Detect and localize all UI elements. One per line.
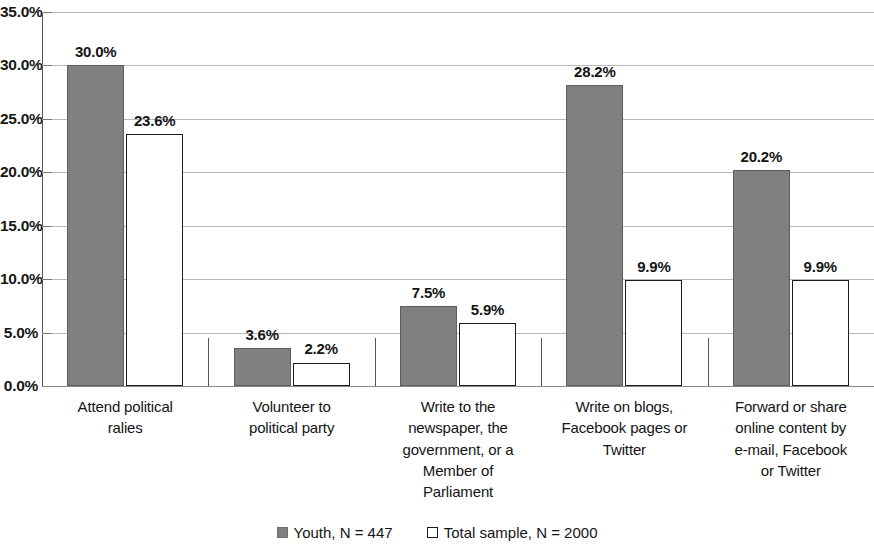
bar-data-label: 30.0% [75, 43, 117, 60]
category-label-line: Volunteer to [208, 396, 374, 417]
bar-chart: 0.0%5.0%10.0%15.0%20.0%25.0%30.0%35.0% 3… [0, 0, 874, 554]
x-axis-category-label: Write on blogs,Facebook pages orTwitter [541, 396, 707, 460]
category-label-line: newspaper, the [375, 417, 541, 438]
legend-label: Youth, N = 447 [294, 524, 393, 541]
bar-data-label: 2.2% [304, 340, 337, 357]
bar-total-sample [792, 280, 849, 386]
bar-data-label: 28.2% [574, 63, 616, 80]
bar-youth [234, 348, 291, 386]
category-separator-tick [708, 338, 709, 386]
y-axis-tick-mark [43, 226, 52, 227]
category-separator-tick [208, 338, 209, 386]
y-axis-tick-mark [43, 119, 52, 120]
y-axis-line [42, 12, 43, 386]
bar-total-sample [459, 323, 516, 386]
y-axis-tick-label: 25.0% [0, 110, 38, 128]
y-axis-tick-mark [43, 333, 52, 334]
category-label-line: political party [208, 417, 374, 438]
category-label-line: e-mail, Facebook [708, 439, 874, 460]
y-axis-tick-mark [43, 12, 52, 13]
x-axis-line [42, 386, 874, 387]
category-label-line: or Twitter [708, 460, 874, 481]
bar-total-sample [126, 134, 183, 386]
y-axis-tick-label: 15.0% [0, 217, 38, 235]
category-label-line: government, or a [375, 439, 541, 460]
y-axis-tick-label: 10.0% [0, 270, 38, 288]
bar-total-sample [625, 280, 682, 386]
x-axis-category-label: Write to thenewspaper, thegovernment, or… [375, 396, 541, 502]
chart-legend: Youth, N = 447Total sample, N = 2000 [0, 524, 874, 541]
x-axis-category-label: Volunteer topolitical party [208, 396, 374, 439]
x-axis-category-label: Attend politicalralies [42, 396, 208, 439]
bar-total-sample [293, 363, 350, 387]
y-axis-tick-mark [43, 65, 52, 66]
bar-data-label: 7.5% [412, 284, 445, 301]
bar-youth [566, 85, 623, 386]
category-label-line: ralies [42, 417, 208, 438]
bar-youth [400, 306, 457, 386]
bar-data-label: 9.9% [637, 258, 670, 275]
y-axis-tick-label: 5.0% [0, 324, 38, 342]
bar-data-label: 20.2% [741, 148, 783, 165]
category-label-line: Parliament [375, 481, 541, 502]
gridline [42, 65, 874, 66]
y-axis-tick-label: 20.0% [0, 163, 38, 181]
category-label-line: Write to the [375, 396, 541, 417]
y-axis-tick-label: 35.0% [0, 3, 38, 21]
bar-data-label: 3.6% [245, 326, 278, 343]
y-axis-tick-label: 30.0% [0, 56, 38, 74]
hollow-square-icon [427, 527, 438, 538]
category-label-line: Write on blogs, [541, 396, 707, 417]
category-label-line: online content by [708, 417, 874, 438]
y-axis-tick-mark [43, 172, 52, 173]
legend-label: Total sample, N = 2000 [444, 524, 598, 541]
legend-item[interactable]: Youth, N = 447 [277, 524, 393, 541]
category-separator-tick [375, 338, 376, 386]
bar-data-label: 9.9% [804, 258, 837, 275]
category-label-line: Facebook pages or [541, 417, 707, 438]
category-label-line: Forward or share [708, 396, 874, 417]
bar-youth [67, 65, 124, 386]
category-label-line: Member of [375, 460, 541, 481]
gridline [42, 12, 874, 13]
category-label-line: Twitter [541, 439, 707, 460]
y-axis-tick-label: 0.0% [0, 377, 38, 395]
category-label-line: Attend political [42, 396, 208, 417]
bar-youth [733, 170, 790, 386]
legend-item[interactable]: Total sample, N = 2000 [427, 524, 598, 541]
bar-data-label: 23.6% [134, 112, 176, 129]
plot-area: 30.0%23.6%3.6%2.2%7.5%5.9%28.2%9.9%20.2%… [42, 12, 874, 386]
category-separator-tick [541, 338, 542, 386]
x-axis-category-label: Forward or shareonline content bye-mail,… [708, 396, 874, 481]
bar-data-label: 5.9% [471, 301, 504, 318]
y-axis-tick-mark [43, 279, 52, 280]
filled-square-icon [277, 527, 288, 538]
